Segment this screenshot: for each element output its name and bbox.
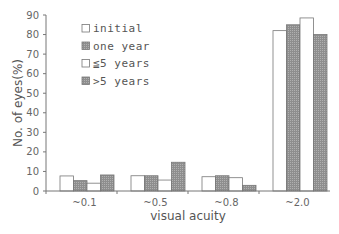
legend-swatch xyxy=(82,42,90,50)
legend-label: ≦5 years xyxy=(93,57,150,70)
bar xyxy=(87,183,101,191)
x-tick-label: ~0.5 xyxy=(143,197,167,208)
legend-swatch xyxy=(82,25,90,33)
bar-chart: No. of eyes(%) 0102030405060708090 ~0.1~… xyxy=(0,0,339,234)
y-tick-label: 50 xyxy=(26,88,39,99)
bar xyxy=(202,177,216,191)
bar xyxy=(60,176,74,191)
bar xyxy=(101,175,115,191)
y-axis-label: No. of eyes(%) xyxy=(11,59,25,147)
bar xyxy=(145,176,159,191)
bar xyxy=(287,25,301,191)
legend: initialone year≦5 years>5 years xyxy=(82,22,150,88)
x-axis-label: visual acuity xyxy=(150,209,226,223)
y-tick-label: 40 xyxy=(26,107,39,118)
bar xyxy=(243,185,257,191)
legend-label: one year xyxy=(93,40,150,53)
y-tick-label: 90 xyxy=(26,10,39,21)
legend-swatch xyxy=(82,77,90,85)
legend-label: initial xyxy=(93,22,143,35)
x-tick-label: ~0.1 xyxy=(72,197,96,208)
bar xyxy=(314,35,328,191)
x-axis: ~0.1~0.5~0.8~2.0 xyxy=(46,191,330,208)
y-tick-label: 0 xyxy=(33,186,39,197)
bar xyxy=(216,176,230,191)
y-tick-label: 20 xyxy=(26,146,39,157)
bar xyxy=(300,18,314,191)
y-tick-label: 80 xyxy=(26,29,39,40)
legend-swatch xyxy=(82,60,90,68)
y-tick-label: 60 xyxy=(26,68,39,79)
y-tick-label: 70 xyxy=(26,49,39,60)
bar xyxy=(74,181,88,191)
bar xyxy=(229,178,243,191)
bar xyxy=(158,180,172,191)
y-tick-label: 30 xyxy=(26,127,39,138)
y-axis: 0102030405060708090 xyxy=(26,10,46,197)
x-tick-label: ~0.8 xyxy=(214,197,238,208)
y-axis-title: No. of eyes(%) xyxy=(11,59,25,147)
y-tick-label: 10 xyxy=(26,166,39,177)
legend-label: >5 years xyxy=(93,75,150,88)
bar xyxy=(131,176,145,191)
x-tick-label: ~2.0 xyxy=(285,197,309,208)
bar xyxy=(172,162,186,191)
bar xyxy=(273,31,287,191)
